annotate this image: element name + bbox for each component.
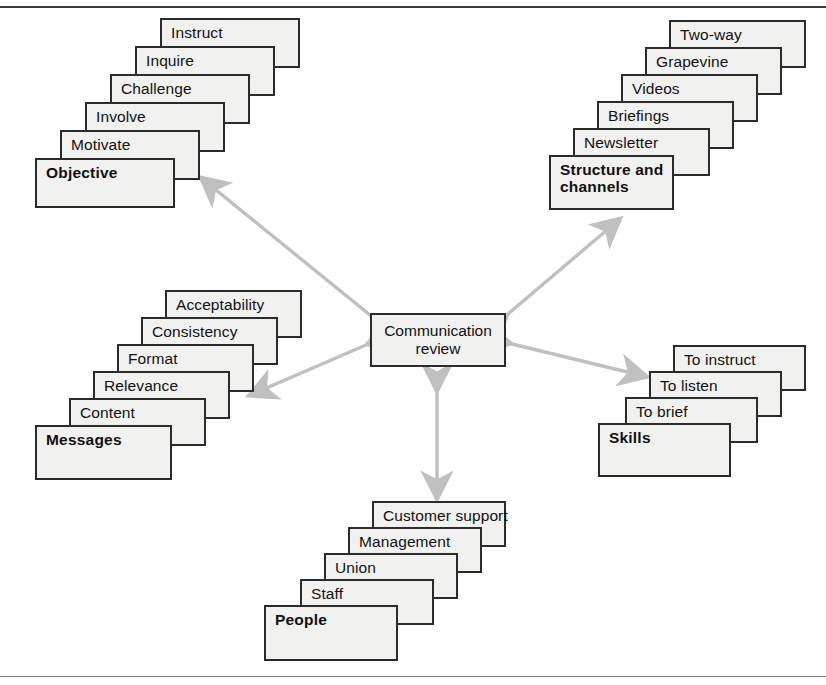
center-node-communication-review[interactable]: Communication review — [370, 313, 506, 367]
center-node-line2: review — [416, 340, 461, 358]
card-label: Staff — [311, 585, 343, 602]
card-people-base[interactable]: People — [264, 605, 398, 661]
card-label: Customer support — [383, 507, 508, 524]
diagram-page: Instruct Inquire Challenge Involve Motiv… — [0, 0, 826, 685]
center-node-line1: Communication — [384, 322, 492, 340]
card-label: Union — [335, 559, 376, 576]
card-label: Management — [359, 533, 450, 550]
card-label: People — [275, 611, 327, 628]
